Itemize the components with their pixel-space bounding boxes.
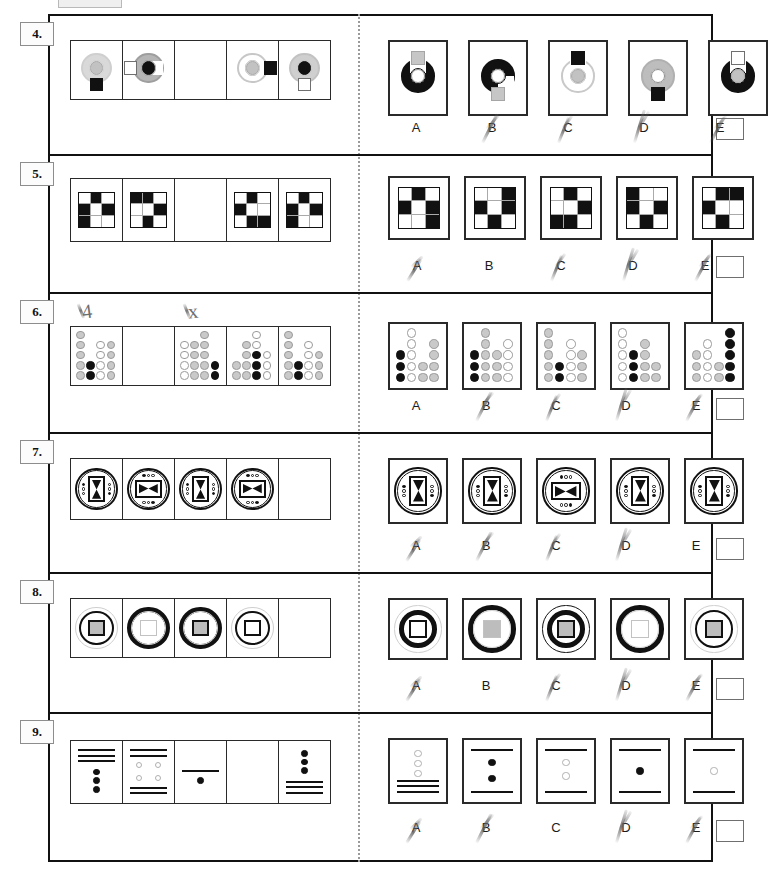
mini-dot bbox=[564, 475, 568, 479]
mini-dot-group bbox=[186, 483, 189, 495]
option-C[interactable] bbox=[536, 322, 596, 390]
option-A[interactable] bbox=[388, 458, 448, 524]
sequence-cell bbox=[123, 599, 175, 657]
letter-gap bbox=[654, 398, 668, 413]
option-D[interactable] bbox=[610, 322, 670, 390]
grid-cell bbox=[640, 215, 653, 228]
dot bbox=[211, 351, 220, 360]
dot bbox=[86, 361, 95, 370]
dot bbox=[544, 328, 554, 338]
dot bbox=[304, 341, 313, 350]
option-B[interactable] bbox=[462, 322, 522, 390]
inner-disc bbox=[246, 61, 259, 74]
option-E[interactable] bbox=[684, 598, 744, 660]
option-E[interactable] bbox=[708, 40, 768, 116]
option-A[interactable] bbox=[388, 322, 448, 390]
mini-dot-group bbox=[212, 483, 215, 495]
center-square bbox=[88, 620, 105, 637]
grid-cell bbox=[730, 188, 743, 201]
option-C[interactable] bbox=[536, 738, 596, 804]
dot bbox=[252, 371, 261, 380]
option-A[interactable] bbox=[388, 738, 448, 804]
option-E[interactable] bbox=[692, 176, 754, 240]
sequence-blank-cell bbox=[279, 599, 330, 657]
option-A[interactable] bbox=[388, 176, 450, 240]
grid-cell bbox=[310, 216, 322, 228]
dot bbox=[86, 331, 95, 340]
option-gap bbox=[448, 598, 462, 660]
dot bbox=[315, 371, 324, 380]
mini-dot bbox=[212, 492, 215, 495]
dot bbox=[200, 361, 209, 370]
sequence-cell bbox=[227, 41, 279, 99]
dot bbox=[414, 750, 421, 757]
option-D[interactable] bbox=[610, 458, 670, 524]
dot bbox=[190, 331, 199, 340]
option-A[interactable] bbox=[388, 40, 448, 116]
mini-dot bbox=[186, 487, 189, 490]
h-line bbox=[130, 792, 168, 794]
option-D[interactable] bbox=[628, 40, 688, 116]
option-letter-D: D bbox=[598, 538, 654, 553]
dot bbox=[414, 760, 421, 767]
grid-cell bbox=[412, 188, 425, 201]
bowtie-icon bbox=[485, 478, 500, 503]
dot bbox=[703, 373, 713, 383]
option-gap bbox=[448, 40, 468, 116]
mini-dot-group bbox=[246, 474, 258, 477]
option-E[interactable] bbox=[684, 738, 744, 804]
dot bbox=[692, 328, 702, 338]
option-D[interactable] bbox=[610, 738, 670, 804]
mini-dot bbox=[82, 483, 85, 486]
option-E[interactable] bbox=[684, 322, 744, 390]
dot bbox=[86, 371, 95, 380]
option-D[interactable] bbox=[616, 176, 678, 240]
dot bbox=[503, 362, 513, 372]
option-C[interactable] bbox=[536, 458, 596, 524]
dot bbox=[418, 362, 428, 372]
option-C[interactable] bbox=[536, 598, 596, 660]
dot bbox=[577, 328, 587, 338]
dot bbox=[429, 350, 439, 360]
dot bbox=[725, 328, 735, 338]
mini-dot-group bbox=[476, 485, 480, 498]
dot bbox=[629, 362, 639, 372]
grid-cell bbox=[716, 201, 729, 214]
option-E[interactable] bbox=[684, 458, 744, 524]
bowtie-icon bbox=[633, 478, 648, 503]
grid-cell bbox=[102, 216, 114, 228]
option-B[interactable] bbox=[464, 176, 526, 240]
mini-dot bbox=[82, 487, 85, 490]
mini-dot bbox=[726, 494, 730, 498]
option-A[interactable] bbox=[388, 598, 448, 660]
row-5-sequence bbox=[70, 178, 331, 242]
h-line bbox=[130, 787, 168, 789]
grid-cell bbox=[258, 204, 270, 216]
letter-gap bbox=[590, 258, 604, 273]
option-B[interactable] bbox=[462, 458, 522, 524]
mini-dot bbox=[108, 487, 111, 490]
grid-cell bbox=[258, 193, 270, 205]
dot bbox=[577, 373, 587, 383]
grid-cell bbox=[235, 216, 247, 228]
option-B[interactable] bbox=[462, 738, 522, 804]
dot bbox=[396, 328, 406, 338]
dot bbox=[577, 362, 587, 372]
mini-dot bbox=[186, 483, 189, 486]
row-number-8: 8. bbox=[20, 580, 54, 604]
grid-cell bbox=[287, 193, 299, 205]
dot bbox=[294, 331, 303, 340]
dot bbox=[470, 373, 480, 383]
option-B[interactable] bbox=[462, 598, 522, 660]
dot bbox=[555, 373, 565, 383]
dot bbox=[566, 328, 576, 338]
option-C[interactable] bbox=[548, 40, 608, 116]
option-gap bbox=[688, 40, 708, 116]
option-B[interactable] bbox=[468, 40, 528, 116]
sequence-cell bbox=[175, 459, 227, 519]
row-number-7: 7. bbox=[20, 440, 54, 464]
row-4-letters: ABCDE bbox=[388, 120, 748, 135]
option-D[interactable] bbox=[610, 598, 670, 660]
dot bbox=[555, 350, 565, 360]
option-C[interactable] bbox=[540, 176, 602, 240]
